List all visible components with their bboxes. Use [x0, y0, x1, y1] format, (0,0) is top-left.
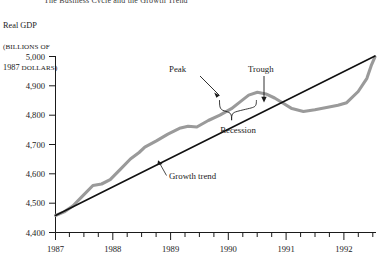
ytick-label: 4,500	[26, 198, 45, 208]
y-axis-caption-line3-number: 1987	[3, 63, 20, 72]
y-axis-caption-line1: Real GDP	[3, 21, 37, 30]
axis-lines	[56, 56, 377, 233]
ytick-label: 4,700	[26, 140, 45, 150]
xtick-label: 1992	[335, 244, 352, 254]
xtick-label: 1989	[162, 244, 179, 254]
ytick-label: 4,600	[26, 169, 45, 179]
y-axis-caption: Real GDP (BILLIONS OF 1987 DOLLARS)	[3, 11, 57, 73]
annotation-trough-arrowhead	[261, 97, 266, 103]
annotation-peak: Peak	[169, 64, 220, 98]
xtick-label: 1991	[278, 244, 295, 254]
series-growth-trend	[56, 56, 376, 216]
annotation-recession-label: Recession	[220, 125, 256, 135]
annotation-growth-trend-leader	[160, 163, 167, 176]
annotation-peak-leader	[200, 76, 220, 96]
business-cycle-figure: The Business Cycle and the Growth Trend …	[0, 0, 378, 262]
y-axis-tick-labels: 5,000 4,900 4,800 4,700 4,600 4,500 4,40…	[26, 52, 45, 238]
y-axis-caption-line3-word: DOLLARS)	[20, 64, 58, 72]
annotation-growth-trend: Growth trend	[157, 160, 216, 181]
x-axis-tick-labels: 1987 1988 1989 1990 1991 1992	[47, 244, 353, 254]
x-axis-minor-ticks	[69, 233, 372, 238]
annotation-growth-trend-label: Growth trend	[169, 171, 217, 181]
ytick-label: 4,900	[26, 81, 45, 91]
annotation-trough-label: Trough	[248, 64, 274, 74]
y-axis-ticks	[49, 57, 56, 233]
ytick-label: 4,800	[26, 110, 45, 120]
xtick-label: 1990	[220, 244, 237, 254]
ytick-label: 4,400	[26, 228, 45, 238]
xtick-label: 1988	[104, 244, 121, 254]
xtick-label: 1987	[47, 244, 65, 254]
figure-title-cropped: The Business Cycle and the Growth Trend	[44, 0, 294, 3]
y-axis-caption-line2: (BILLIONS OF	[3, 43, 50, 51]
annotation-peak-label: Peak	[169, 64, 187, 74]
